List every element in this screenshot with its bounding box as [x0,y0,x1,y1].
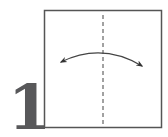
origami-diagram [0,0,168,137]
